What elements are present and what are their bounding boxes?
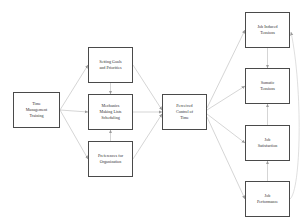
edge-preferences-to-control bbox=[133, 114, 162, 159]
edge-control-to-somatic-tensions bbox=[207, 86, 245, 110]
edge-control-to-job-satisfaction bbox=[207, 114, 245, 143]
edge-job-performance-to-job-induced-tensions bbox=[290, 32, 299, 199]
node-time-management-training[interactable]: Time Management Training bbox=[13, 92, 60, 128]
node-label: Somatic Tensions bbox=[260, 80, 275, 92]
edge-control-to-job-performance bbox=[207, 117, 245, 199]
node-label: Job Satisfaction bbox=[258, 137, 278, 149]
node-label: Time Management Training bbox=[26, 101, 48, 119]
node-label: Preferences for Organization bbox=[98, 153, 123, 165]
edge-training-to-preferences bbox=[60, 110, 88, 159]
node-label: Job Induced Tensions bbox=[257, 24, 277, 36]
node-label: Setting Goals and Priorities bbox=[99, 59, 121, 71]
edge-training-to-goals bbox=[60, 65, 88, 110]
edge-training-to-mechanics bbox=[60, 110, 88, 112]
node-job-satisfaction[interactable]: Job Satisfaction bbox=[245, 125, 290, 161]
edge-control-to-job-induced-tensions bbox=[207, 30, 245, 108]
node-preferences-for-organization[interactable]: Preferences for Organization bbox=[88, 141, 133, 177]
edge-goals-to-control bbox=[133, 65, 162, 110]
node-mechanics-making-lists-scheduling[interactable]: Mechanics Making Lists Scheduling bbox=[88, 94, 133, 130]
node-label: Perceived Control of Time bbox=[176, 103, 193, 121]
node-perceived-control-of-time[interactable]: Perceived Control of Time bbox=[162, 94, 207, 130]
node-setting-goals-and-priorities[interactable]: Setting Goals and Priorities bbox=[88, 47, 133, 83]
node-job-induced-tensions[interactable]: Job Induced Tensions bbox=[245, 12, 290, 48]
node-label: Mechanics Making Lists Scheduling bbox=[100, 103, 122, 121]
diagram-canvas: Time Management Training Setting Goals a… bbox=[0, 0, 308, 224]
node-label: Job Performance bbox=[257, 193, 278, 205]
node-somatic-tensions[interactable]: Somatic Tensions bbox=[245, 68, 290, 104]
node-job-performance[interactable]: Job Performance bbox=[245, 181, 290, 217]
